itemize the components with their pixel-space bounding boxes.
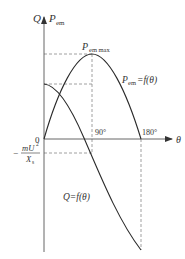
- p-curve-label: P: [121, 75, 128, 85]
- x-axis-label-theta: θ: [176, 134, 181, 145]
- q-curve-label: Q=f(θ): [63, 192, 90, 203]
- tick-180: 180°: [142, 128, 157, 137]
- pmax-label: P: [81, 41, 88, 52]
- power-angle-diagram: Q P em 0 θ 90° 180° P em max P em =f(θ) …: [0, 0, 185, 259]
- p-curve-label-eq: =f(θ): [137, 75, 157, 86]
- p-curve-label-sub: em: [128, 79, 136, 86]
- pmax-label-sub: em max: [89, 46, 111, 53]
- p-em-curve: [44, 54, 141, 139]
- y-axis-label-p-sub: em: [56, 19, 65, 27]
- q-min-fraction-label: − mU 2 X s: [13, 141, 40, 165]
- fraction-denominator: X: [25, 154, 32, 164]
- fraction-neg-sign: −: [13, 148, 18, 158]
- fraction-numerator: mU: [22, 143, 35, 153]
- fraction-numerator-sup: 2: [36, 141, 39, 147]
- y-axis-label-p: P: [48, 12, 56, 24]
- q-curve: [44, 84, 141, 250]
- fraction-denominator-sub: s: [32, 159, 34, 165]
- tick-90: 90°: [95, 128, 106, 137]
- y-axis-label-q: Q: [33, 12, 41, 24]
